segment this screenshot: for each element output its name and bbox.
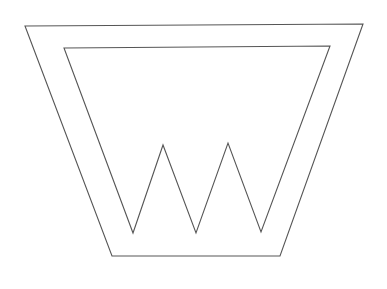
w-logo-drawing (0, 0, 387, 289)
drawing-background (0, 0, 387, 289)
figure-canvas: W Monogram Line Drawing Outline drawing … (0, 0, 387, 289)
